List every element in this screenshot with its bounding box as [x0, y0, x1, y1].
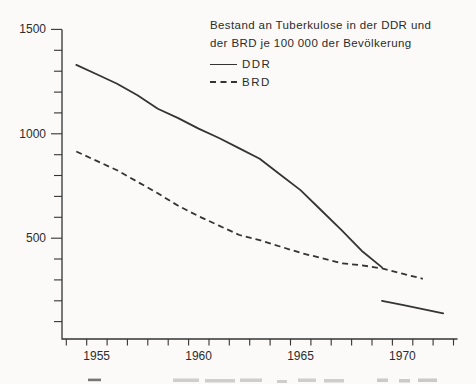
y-axis-labels: 15001000500	[19, 22, 46, 245]
x-axis-labels: 1955196019651970	[83, 349, 416, 363]
x-axis-tick-label: 1965	[287, 349, 314, 363]
brd-dashed-line-swatch	[210, 81, 237, 83]
brd-line	[76, 152, 423, 279]
x-axis-tick-label: 1955	[83, 349, 110, 363]
x-axis-tick-label: 1960	[185, 349, 212, 363]
y-axis-tick-label: 500	[26, 231, 46, 245]
ddr-line-lower-segment	[382, 301, 443, 314]
chart-title: Bestand an Tuberkulose in der DDR und de…	[210, 16, 468, 52]
legend: DDR BRD	[210, 55, 271, 91]
legend-item-brd: BRD	[210, 73, 271, 91]
legend-label-ddr: DDR	[242, 58, 271, 70]
legend-label-brd: BRD	[242, 76, 271, 88]
y-axis-ticks	[51, 29, 62, 321]
ddr-solid-line-swatch	[210, 64, 237, 65]
chart-figure: 15001000500 1955196019651970 Bestand an …	[0, 0, 476, 384]
ddr-line	[76, 65, 382, 268]
y-axis-tick-label: 1500	[19, 22, 46, 36]
chart-title-line-2: der BRD je 100 000 der Bevölkerung	[210, 34, 468, 52]
legend-item-ddr: DDR	[210, 55, 271, 73]
y-axis-tick-label: 1000	[19, 127, 46, 141]
x-axis-tick-label: 1970	[389, 349, 416, 363]
x-axis-ticks	[66, 339, 453, 346]
chart-title-line-1: Bestand an Tuberkulose in der DDR und	[210, 16, 468, 34]
cropped-caption-artifact	[88, 379, 437, 384]
